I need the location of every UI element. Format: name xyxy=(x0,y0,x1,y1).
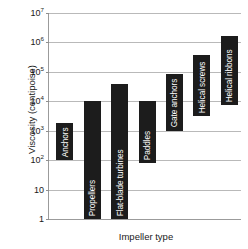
gridline xyxy=(49,42,241,43)
viscosity-impeller-bar-chart: Viscosity (centipoise) 10710610510410310… xyxy=(0,0,248,249)
gridline xyxy=(49,72,241,73)
bar-label: Flat-blade turbines xyxy=(115,149,123,216)
bar-helical-screws: Helical screws xyxy=(193,55,210,116)
y-tick-label: 1 xyxy=(39,215,44,224)
y-tick-mark xyxy=(46,13,49,14)
gridline xyxy=(49,190,241,191)
x-axis-title: Impeller type xyxy=(44,231,248,242)
bar-propellers: Propellers xyxy=(84,101,101,219)
y-tick-mark xyxy=(46,219,49,220)
bar-paddles: Paddles xyxy=(139,101,156,163)
bar-label: Gate anchors xyxy=(170,79,178,128)
y-tick-label: 107 xyxy=(31,9,44,18)
y-tick-label: 106 xyxy=(31,38,44,47)
y-tick-mark xyxy=(46,72,49,73)
bar-label: Helical ribbons xyxy=(225,49,233,102)
gridline xyxy=(49,13,241,14)
y-tick-label: 102 xyxy=(31,156,44,165)
bar-anchors: Anchors xyxy=(56,123,73,160)
y-tick-mark xyxy=(46,190,49,191)
bar-label: Propellers xyxy=(88,180,96,216)
bar-flat-blade-turbines: Flat-blade turbines xyxy=(111,84,128,219)
y-tick-label: 104 xyxy=(31,97,44,106)
plot-area: 107106105104103102101 AnchorsPropellersF… xyxy=(48,13,241,220)
y-tick-label: 105 xyxy=(31,67,44,76)
y-tick-mark xyxy=(46,101,49,102)
bar-helical-ribbons: Helical ribbons xyxy=(221,36,238,105)
y-tick-mark xyxy=(46,131,49,132)
y-tick-label: 10 xyxy=(34,185,44,194)
y-tick-mark xyxy=(46,42,49,43)
bar-label: Anchors xyxy=(61,127,69,157)
bar-label: Paddles xyxy=(143,131,151,160)
bar-label: Helical screws xyxy=(198,61,206,113)
y-tick-mark xyxy=(46,160,49,161)
y-tick-label: 103 xyxy=(31,126,44,135)
bar-gate-anchors: Gate anchors xyxy=(166,74,183,131)
